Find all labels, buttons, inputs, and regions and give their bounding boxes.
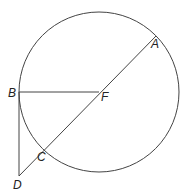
label-c: C <box>37 150 46 164</box>
label-b: B <box>8 86 16 100</box>
label-f: F <box>101 90 109 104</box>
geometry-diagram: A B F C D <box>0 0 188 195</box>
label-a: A <box>150 37 159 51</box>
label-d: D <box>13 178 22 192</box>
